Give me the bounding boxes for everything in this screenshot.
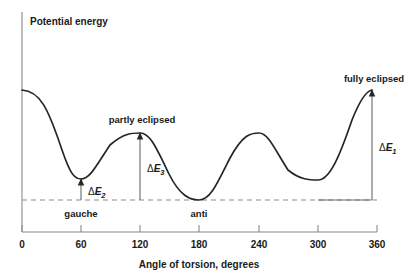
x-tick-label-120: 120 [132, 239, 149, 250]
fully-eclipsed-label: fully eclipsed [344, 73, 404, 84]
delta-e2-subscript: 2 [100, 191, 106, 200]
x-tick-label-240: 240 [251, 239, 268, 250]
x-axis-title: Angle of torsion, degrees [139, 259, 260, 270]
partly-eclipsed-label: partly eclipsed [109, 114, 176, 125]
gauche-label: gauche [64, 208, 97, 219]
y-axis-title: Potential energy [30, 16, 108, 27]
x-tick-label-360: 360 [369, 239, 386, 250]
delta-e1-subscript: 1 [392, 147, 396, 156]
potential-energy-chart: Potential energy Angle of torsion, degre… [0, 0, 419, 278]
x-tick-label-0: 0 [19, 239, 25, 250]
x-tick-label-60: 60 [75, 239, 87, 250]
chart-background [0, 0, 419, 278]
x-tick-label-300: 300 [310, 239, 327, 250]
anti-label: anti [191, 208, 208, 219]
chart-svg: Potential energy Angle of torsion, degre… [0, 0, 419, 278]
x-tick-label-180: 180 [191, 239, 208, 250]
